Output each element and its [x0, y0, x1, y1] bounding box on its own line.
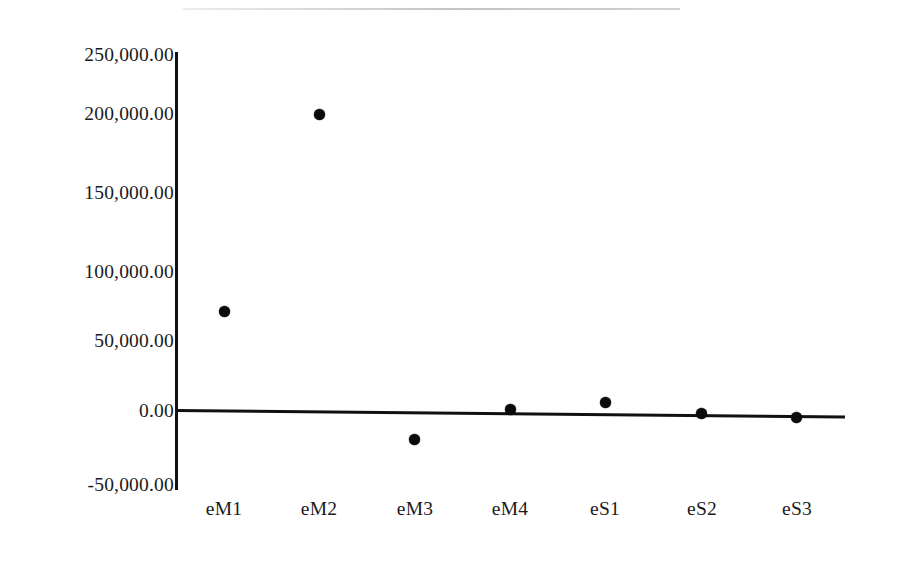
data-point-em4	[505, 404, 516, 415]
data-point-em2	[314, 109, 325, 120]
x-tick-label-em4: eM4	[465, 498, 555, 520]
y-axis-line	[175, 52, 178, 490]
plot-area: 250,000.00 200,000.00 150,000.00 100,000…	[0, 0, 900, 561]
x-tick-label-em1: eM1	[179, 498, 269, 520]
x-tick-label-es1: eS1	[560, 498, 650, 520]
data-point-em1	[219, 306, 230, 317]
x-tick-label-es2: eS2	[657, 498, 747, 520]
y-tick-label-50000: 50,000.00	[38, 331, 174, 351]
y-tick-label-250000: 250,000.00	[38, 45, 174, 65]
x-tick-label-em2: eM2	[274, 498, 364, 520]
data-point-em3	[409, 434, 420, 445]
y-tick-label-0: 0.00	[38, 401, 174, 421]
x-tick-label-em3: eM3	[370, 498, 460, 520]
x-tick-label-es3: eS3	[752, 498, 842, 520]
data-point-es3	[791, 412, 802, 423]
data-point-es2	[696, 408, 707, 419]
scatter-chart-figure: 250,000.00 200,000.00 150,000.00 100,000…	[0, 0, 900, 561]
data-point-es1	[600, 397, 611, 408]
y-tick-label-200000: 200,000.00	[38, 104, 174, 124]
y-tick-label-100000: 100,000.00	[38, 262, 174, 282]
y-tick-label-neg50000: -50,000.00	[38, 475, 174, 495]
y-tick-label-150000: 150,000.00	[38, 183, 174, 203]
